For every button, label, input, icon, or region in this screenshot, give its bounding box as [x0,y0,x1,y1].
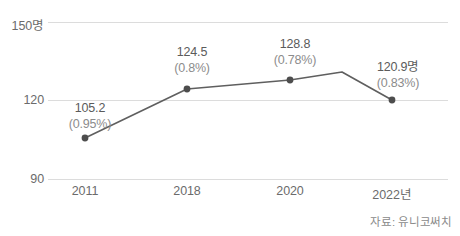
data-point-2011 [82,135,89,142]
source-note: 자료: 유니코써치 [370,213,452,229]
data-label-2022: 120.9명 (0.83%) [377,59,419,91]
data-label-2020: 128.8 (0.78%) [274,36,316,68]
data-label-2011: 105.2 (0.95%) [69,100,111,132]
data-label-pct-2011: (0.95%) [69,116,111,132]
x-axis-tick-2011: 2011 [72,184,98,198]
line-chart: 150명 120 90 105.2 (0.95%) 124.5 (0.8%) 1… [0,0,460,236]
data-label-value-2018: 124.5 [174,44,210,60]
x-axis-tick-2020: 2020 [276,184,303,198]
data-point-2018 [184,86,191,93]
data-label-value-2020: 128.8 [274,36,316,52]
data-point-2022 [389,97,396,104]
x-axis-tick-2018: 2018 [173,184,200,198]
data-label-pct-2020: (0.78%) [274,52,316,68]
data-label-pct-2018: (0.8%) [174,60,210,76]
data-point-2020 [287,77,294,84]
data-label-value-2022: 120.9명 [377,59,419,75]
data-label-pct-2022: (0.83%) [377,75,419,91]
data-label-2018: 124.5 (0.8%) [174,44,210,76]
x-axis-tick-2022: 2022년 [372,184,411,203]
series-polyline [85,72,392,138]
data-label-value-2011: 105.2 [69,100,111,116]
